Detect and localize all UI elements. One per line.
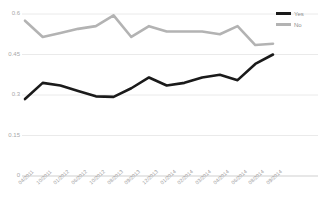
gridlines [22, 14, 318, 176]
y-tick-label: 0.6 [0, 10, 20, 16]
y-tick-label: 0.3 [0, 91, 20, 97]
legend-label: Yes [294, 11, 304, 17]
legend-item[interactable]: No [276, 19, 322, 30]
y-tick-label: 0.45 [0, 51, 20, 57]
line-chart: 0.60.450.30.150 04/201110/201101/201206/… [0, 0, 324, 213]
series-line-no [25, 15, 273, 45]
series-lines [25, 15, 273, 99]
y-tick-label: 0.15 [0, 132, 20, 138]
legend-item[interactable]: Yes [276, 8, 322, 19]
legend-swatch [276, 23, 291, 26]
chart-legend: YesNo [276, 8, 322, 30]
legend-label: No [294, 22, 302, 28]
legend-swatch [276, 12, 291, 15]
y-tick-label: 0 [0, 172, 20, 178]
series-line-yes [25, 55, 273, 100]
